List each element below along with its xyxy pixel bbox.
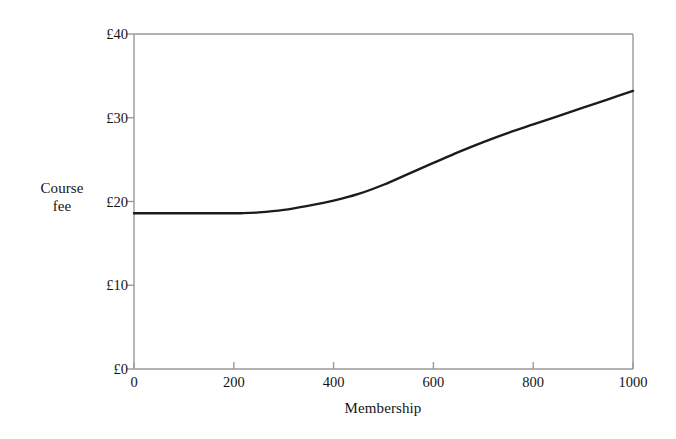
x-tick-label: 400 bbox=[299, 375, 369, 390]
y-tick-label: £40 bbox=[72, 27, 128, 42]
y-axis-tick-labels: £0£10£20£30£40 bbox=[68, 0, 128, 439]
x-tick-label: 200 bbox=[199, 375, 269, 390]
x-tick-label: 1000 bbox=[598, 375, 668, 390]
x-tick-label: 600 bbox=[398, 375, 468, 390]
series-course-fee bbox=[134, 91, 633, 213]
axis-spines bbox=[134, 34, 633, 369]
x-axis-title: Membership bbox=[258, 400, 508, 418]
y-axis-tick-marks bbox=[127, 34, 134, 369]
y-tick-label: £10 bbox=[72, 278, 128, 293]
chart-figure: £0£10£20£30£40 02004006008001000 Course … bbox=[0, 0, 676, 439]
x-tick-label: 800 bbox=[498, 375, 568, 390]
x-tick-label: 0 bbox=[99, 375, 169, 390]
y-axis-title: Course fee bbox=[14, 180, 110, 215]
x-axis-tick-marks bbox=[134, 362, 633, 369]
y-tick-label: £30 bbox=[72, 111, 128, 126]
